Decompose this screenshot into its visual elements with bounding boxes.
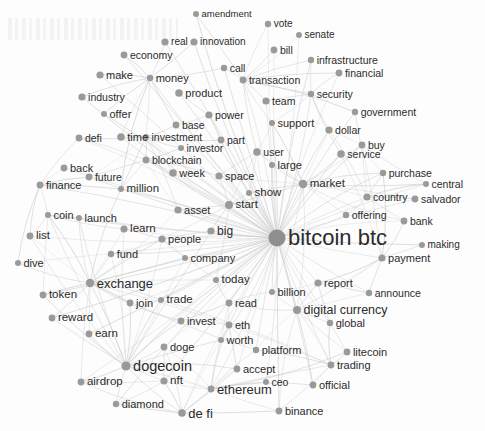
graph-node-platform[interactable] bbox=[253, 347, 259, 353]
graph-node-worth[interactable] bbox=[218, 337, 224, 343]
graph-node-investment[interactable] bbox=[143, 134, 149, 140]
graph-node-read[interactable] bbox=[226, 300, 233, 307]
graph-node-offering[interactable] bbox=[343, 212, 349, 218]
graph-node-back[interactable] bbox=[61, 165, 68, 172]
graph-node-fund[interactable] bbox=[108, 251, 114, 257]
graph-node-make[interactable] bbox=[96, 71, 103, 78]
graph-node-litecoin[interactable] bbox=[344, 349, 351, 356]
graph-node-big[interactable] bbox=[207, 227, 214, 234]
graph-node-real[interactable] bbox=[161, 38, 168, 45]
graph-edge bbox=[277, 173, 383, 238]
graph-node-invest[interactable] bbox=[178, 318, 185, 325]
graph-node-bitcoin_btc[interactable] bbox=[269, 230, 286, 247]
graph-node-economy[interactable] bbox=[121, 52, 128, 59]
graph-node-eth[interactable] bbox=[226, 322, 233, 329]
graph-node-support[interactable] bbox=[269, 120, 275, 126]
graph-node-accept[interactable] bbox=[234, 366, 241, 373]
graph-node-exchange[interactable] bbox=[86, 279, 94, 287]
graph-node-doge[interactable] bbox=[161, 344, 168, 351]
graph-node-ethereum[interactable] bbox=[208, 386, 215, 393]
graph-node-financial[interactable] bbox=[336, 70, 343, 77]
graph-node-announce[interactable] bbox=[366, 290, 372, 296]
graph-node-trading[interactable] bbox=[328, 362, 335, 369]
graph-node-buy[interactable] bbox=[359, 142, 366, 149]
graph-node-reward[interactable] bbox=[49, 315, 56, 322]
graph-node-asset[interactable] bbox=[174, 206, 181, 213]
graph-node-service[interactable] bbox=[337, 150, 345, 158]
graph-edge bbox=[311, 73, 339, 94]
graph-node-time[interactable] bbox=[117, 133, 125, 141]
graph-node-blockchain[interactable] bbox=[143, 157, 150, 164]
graph-node-coin[interactable] bbox=[45, 212, 51, 218]
graph-node-report[interactable] bbox=[314, 279, 321, 286]
graph-node-team[interactable] bbox=[262, 97, 269, 104]
graph-node-company[interactable] bbox=[182, 255, 188, 261]
graph-node-industry[interactable] bbox=[78, 93, 85, 100]
graph-node-dogecoin[interactable] bbox=[121, 361, 130, 370]
graph-node-trade[interactable] bbox=[158, 297, 164, 303]
graph-node-dollar[interactable] bbox=[325, 126, 332, 133]
graph-node-global[interactable] bbox=[327, 320, 333, 326]
graph-node-join[interactable] bbox=[127, 300, 134, 307]
graph-node-ceo[interactable] bbox=[263, 379, 269, 385]
graph-node-purchase[interactable] bbox=[380, 170, 386, 176]
graph-node-transaction[interactable] bbox=[240, 77, 247, 84]
graph-node-central[interactable] bbox=[423, 181, 429, 187]
graph-node-future[interactable] bbox=[86, 174, 93, 181]
graph-node-part[interactable] bbox=[218, 137, 225, 144]
graph-node-product[interactable] bbox=[175, 89, 183, 97]
graph-node-making[interactable] bbox=[419, 242, 425, 248]
graph-node-start[interactable] bbox=[225, 201, 233, 209]
graph-edge bbox=[48, 215, 90, 283]
graph-node-security[interactable] bbox=[308, 91, 314, 97]
graph-node-diamond[interactable] bbox=[113, 401, 119, 407]
graph-node-billion[interactable] bbox=[269, 289, 275, 295]
graph-node-salvador[interactable] bbox=[412, 196, 419, 203]
graph-edge bbox=[318, 283, 369, 293]
graph-node-payment[interactable] bbox=[378, 254, 385, 261]
graph-node-nft[interactable] bbox=[160, 377, 167, 384]
graph-node-launch[interactable] bbox=[76, 215, 82, 221]
graph-node-amendment[interactable] bbox=[193, 11, 199, 17]
graph-node-senate[interactable] bbox=[296, 32, 302, 38]
graph-node-base[interactable] bbox=[173, 122, 180, 129]
graph-node-vote[interactable] bbox=[265, 21, 271, 27]
graph-node-airdrop[interactable] bbox=[78, 379, 85, 386]
graph-edge bbox=[126, 300, 161, 366]
graph-node-offer[interactable] bbox=[101, 111, 107, 117]
graph-node-learn[interactable] bbox=[120, 225, 127, 232]
graph-edge bbox=[164, 381, 211, 389]
graph-node-earn[interactable] bbox=[86, 331, 93, 338]
graph-node-list[interactable] bbox=[27, 233, 34, 240]
graph-node-innovation[interactable] bbox=[190, 38, 197, 45]
graph-node-power[interactable] bbox=[205, 111, 212, 118]
graph-node-million[interactable] bbox=[118, 186, 124, 192]
graph-edge bbox=[40, 185, 277, 238]
graph-node-week[interactable] bbox=[169, 169, 177, 177]
graph-node-large[interactable] bbox=[269, 162, 275, 168]
graph-node-binance[interactable] bbox=[276, 408, 283, 415]
graph-node-money[interactable] bbox=[147, 75, 153, 81]
graph-node-investor[interactable] bbox=[178, 145, 184, 151]
graph-node-token[interactable] bbox=[40, 292, 47, 299]
graph-node-defi[interactable] bbox=[76, 135, 83, 142]
graph-node-market[interactable] bbox=[299, 180, 307, 188]
graph-node-user[interactable] bbox=[253, 148, 261, 156]
graph-node-de_fi[interactable] bbox=[178, 409, 186, 417]
graph-node-infrastructure[interactable] bbox=[308, 57, 314, 63]
graph-node-bill[interactable] bbox=[271, 47, 278, 54]
graph-node-digital_currency[interactable] bbox=[293, 306, 301, 314]
graph-node-space[interactable] bbox=[215, 172, 222, 179]
graph-node-bank[interactable] bbox=[401, 218, 408, 225]
graph-edge bbox=[196, 14, 277, 238]
graph-node-dive[interactable] bbox=[15, 260, 21, 266]
graph-node-show[interactable] bbox=[246, 190, 252, 196]
graph-node-government[interactable] bbox=[352, 109, 358, 115]
graph-node-people[interactable] bbox=[158, 235, 165, 242]
graph-node-finance[interactable] bbox=[37, 182, 44, 189]
graph-node-official[interactable] bbox=[310, 382, 317, 389]
graph-node-call[interactable] bbox=[221, 65, 227, 71]
graph-node-today[interactable] bbox=[213, 277, 219, 283]
graph-node-country[interactable] bbox=[363, 193, 370, 200]
graph-edge bbox=[40, 185, 48, 215]
